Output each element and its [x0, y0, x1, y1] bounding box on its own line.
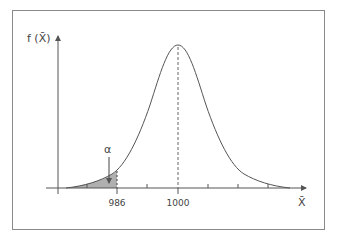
tick-label-1000: 1000 — [167, 198, 190, 208]
density-curve — [66, 45, 290, 188]
normal-distribution-diagram: f (X̄) X̄ α 986 1000 — [0, 0, 338, 241]
y-axis-label: f (X̄) — [27, 32, 51, 45]
x-axis-label: X̄ — [298, 196, 306, 209]
tick-label-986: 986 — [108, 198, 125, 208]
alpha-label: α — [104, 143, 111, 156]
